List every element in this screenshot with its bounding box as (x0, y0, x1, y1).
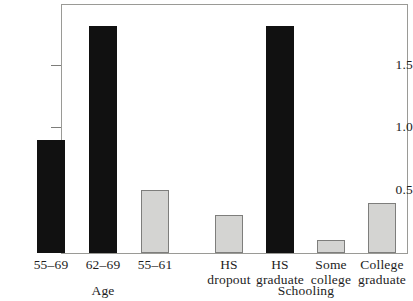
y-tick-label-1-0: 1.0 (369, 120, 413, 133)
x-tick-label-college-graduate: College graduate (342, 258, 413, 287)
y-tick-mark-1-5 (51, 65, 61, 66)
bar-age-55-61 (141, 190, 169, 253)
group-label-age: Age (63, 284, 143, 298)
bar-school-hs-graduate (266, 26, 294, 253)
x-tick-label-line: 55–61 (115, 258, 195, 273)
bar-school-college-grad (368, 203, 396, 253)
bar-age-62-69 (89, 26, 117, 253)
bar-school-some-college (317, 240, 345, 253)
x-tick-label-line: College (342, 258, 413, 273)
group-label-schooling: Schooling (266, 284, 346, 298)
x-tick-label-age-55-61: 55–61 (115, 258, 195, 273)
y-tick-label-1-5: 1.5 (369, 58, 413, 71)
bar-chart: 1.5 1.0 0.5 55–69 62–69 55–61 HS dropout… (0, 0, 413, 301)
y-tick-mark-1-0 (51, 127, 61, 128)
bar-school-hs-dropout (215, 215, 243, 253)
x-tick-label-line: graduate (342, 273, 413, 288)
bar-age-55-69 (37, 140, 65, 253)
y-tick-label-0-5: 0.5 (369, 183, 413, 196)
